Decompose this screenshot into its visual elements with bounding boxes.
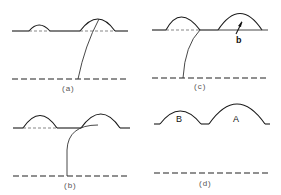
droplet-diagram: (a) b (c) (b) B A (d) xyxy=(0,0,281,195)
arrow-b-head xyxy=(238,21,242,27)
arrow-label-b: b xyxy=(236,35,242,45)
panel-b: (b) xyxy=(13,114,130,190)
panel-caption: (b) xyxy=(64,181,77,190)
panel-caption: (a) xyxy=(62,84,75,93)
droplet-left xyxy=(166,17,200,30)
descending-curve xyxy=(183,30,200,78)
droplet-label-b: B xyxy=(176,114,182,124)
panel-caption: (c) xyxy=(194,82,206,91)
droplet-large xyxy=(80,19,115,31)
panel-caption: (d) xyxy=(199,179,212,188)
bending-curve xyxy=(67,125,98,176)
droplet-small xyxy=(29,25,50,31)
panel-a: (a) xyxy=(12,19,129,93)
descending-curve xyxy=(78,19,99,79)
droplet-left xyxy=(23,116,57,129)
droplet-right xyxy=(218,14,262,31)
droplet-label-a: A xyxy=(233,114,239,124)
panel-d: B A (d) xyxy=(154,104,270,188)
panel-c: b (c) xyxy=(152,14,268,92)
